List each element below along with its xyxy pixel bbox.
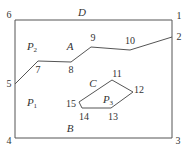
- region-label-c: C: [89, 78, 96, 89]
- vertex-label-5: 5: [7, 79, 12, 89]
- vertex-label-4: 4: [7, 136, 12, 146]
- vertex-label-15: 15: [66, 99, 76, 109]
- vertex-label-2: 2: [177, 32, 182, 42]
- region-label-text: D: [78, 6, 86, 18]
- region-label-text: P: [103, 93, 110, 105]
- region-label-subscript: 2: [34, 46, 38, 54]
- region-label-text: B: [67, 122, 74, 134]
- region-label-subscript: 1: [34, 102, 38, 110]
- vertex-label-7: 7: [36, 65, 41, 75]
- region-label-p3: P3: [103, 94, 113, 107]
- region-label-subscript: 3: [110, 99, 114, 107]
- vertex-label-8: 8: [69, 65, 74, 75]
- vertex-label-6: 6: [7, 10, 12, 20]
- region-label-a: A: [67, 41, 74, 52]
- region-label-p2: P2: [27, 41, 37, 54]
- vertex-label-11: 11: [112, 69, 122, 79]
- vertex-label-10: 10: [125, 36, 135, 46]
- region-label-d: D: [78, 7, 86, 18]
- vertex-label-14: 14: [79, 112, 89, 122]
- vertex-label-12: 12: [134, 85, 144, 95]
- vertex-label-13: 13: [108, 112, 118, 122]
- region-label-p1: P1: [27, 97, 37, 110]
- vertex-label-9: 9: [91, 33, 96, 43]
- diagram-canvas: 123456789101112131415 DAP2P1CP3B: [0, 0, 186, 152]
- region-label-text: P: [27, 96, 34, 108]
- region-label-b: B: [67, 123, 74, 134]
- vertex-label-1: 1: [177, 11, 182, 21]
- region-label-text: A: [67, 40, 74, 52]
- region-label-text: C: [89, 77, 96, 89]
- vertex-label-3: 3: [176, 136, 181, 146]
- region-label-text: P: [27, 40, 34, 52]
